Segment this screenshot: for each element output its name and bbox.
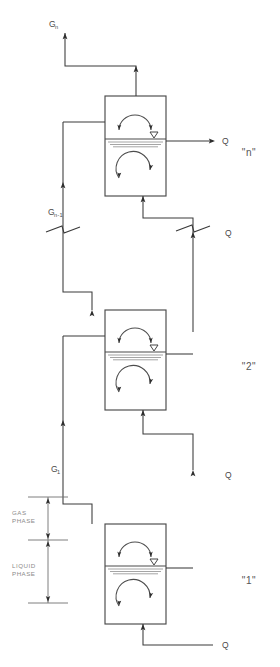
liquid-out-1-arrow: [191, 470, 196, 476]
liquid-phase-label-line2: PHASE: [12, 570, 35, 577]
process-flow-diagram: G n Q "n" G n-1 Q: [0, 0, 280, 667]
stage-1-divider-hatch: [108, 569, 163, 574]
stage-n-gas-outlet-line: [65, 33, 136, 96]
liquid-in-bottom-line: [143, 624, 213, 645]
stage-2-group: "2": [63, 310, 256, 470]
gas-phase-label-line1: GAS: [12, 509, 27, 516]
gas-interstage-1-line: [63, 336, 92, 524]
gas-interstage-n-1-sublabel: n-1: [54, 212, 63, 218]
phase-annotations: GAS PHASE LIQUID PHASE: [12, 497, 68, 603]
stage-n-liquid-inlet-line: [143, 196, 193, 232]
stage-n-vessel: [105, 96, 166, 196]
stage-1-label: "1": [242, 575, 256, 586]
stage-2-liquid-swirl: [116, 365, 150, 392]
stage-2-divider-hatch: [108, 355, 163, 360]
interstage-1-group: G 1 Q: [51, 336, 232, 524]
stage-2-gas-swirl: [119, 328, 151, 343]
diagram-root: G n Q "n" G n-1 Q: [0, 0, 280, 667]
gas-interstage-1-sublabel: 1: [57, 469, 60, 475]
stage-2-gas-outlet-arrow: [90, 310, 95, 316]
liquid-in-bottom-label: Q: [222, 640, 229, 650]
liquid-out-1-label: Q: [225, 470, 232, 480]
liquid-out-n-label: Q: [222, 136, 229, 146]
stage-n-divider-hatch: [108, 142, 163, 147]
stage-n-group: G n Q "n": [49, 19, 256, 232]
liquid-phase-label-line1: LIQUID: [12, 562, 36, 569]
stage-2-label: "2": [242, 361, 256, 372]
gas-out-top-sublabel: n: [55, 24, 58, 30]
gas-phase-label-line2: PHASE: [12, 517, 35, 524]
interstage-n-group: G n-1 Q: [46, 122, 232, 332]
stage-2-liquid-inlet-line: [143, 410, 193, 470]
gas-interstage-n-1-line: [63, 122, 92, 310]
stage-1-level-indicator: [150, 559, 158, 565]
stage-1-group: Q "1": [105, 524, 256, 650]
stage-n-liquid-swirl: [116, 151, 150, 178]
stage-1-liquid-swirl: [116, 579, 150, 606]
stage-n-gas-swirl: [119, 115, 151, 130]
liquid-out-2-break-label: Q: [225, 228, 232, 238]
stage-1-gas-swirl: [119, 542, 151, 557]
stage-2-level-indicator: [150, 345, 158, 351]
stage-n-label: "n": [242, 147, 256, 158]
stage-n-level-indicator: [150, 132, 158, 138]
